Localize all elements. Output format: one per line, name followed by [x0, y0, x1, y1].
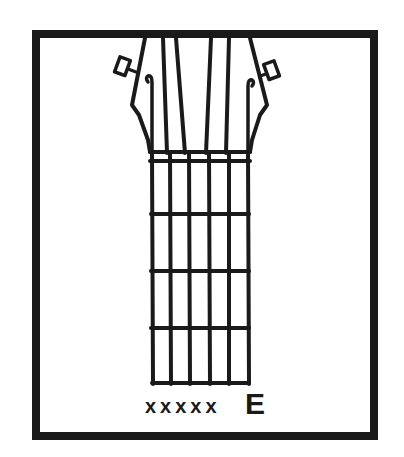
headstock-left-edge	[132, 38, 150, 152]
string-6	[248, 152, 249, 384]
string-2	[170, 152, 171, 384]
headstock-right-edge	[250, 38, 267, 152]
string-1	[152, 152, 153, 384]
tuner-peg-right	[264, 61, 280, 80]
string-3	[189, 152, 190, 384]
tuner-peg-left	[115, 57, 131, 76]
guitar-neck-diagram	[0, 0, 404, 457]
open-string-label: E	[245, 387, 265, 421]
muted-strings-label: xxxxx	[145, 395, 221, 418]
string-4	[209, 152, 210, 384]
